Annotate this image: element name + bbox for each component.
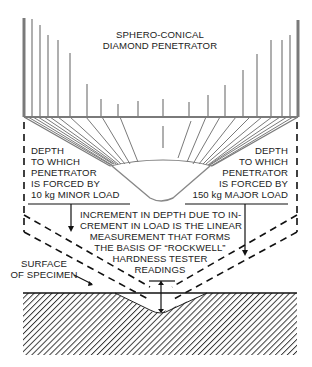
surface-line: SURFACE <box>8 258 80 269</box>
increment-line: HARDNESS TESTER <box>80 253 240 264</box>
major-load-line: 150 kg MAJOR LOAD <box>190 189 288 200</box>
surface-label: SURFACE OF SPECIMEN <box>8 258 80 280</box>
major-load-line: DEPTH <box>190 145 288 156</box>
increment-line: THE BASIS OF “ROCKWELL” <box>80 242 240 253</box>
major-load-line: PENETRATOR <box>190 167 288 178</box>
increment-line: INCREMENT IN DEPTH DUE TO IN- <box>80 209 240 220</box>
minor-load-line: TO WHICH <box>31 156 120 167</box>
rockwell-diagram: SPHERO-CONICAL DIAMOND PENETRATOR DEPTH … <box>0 0 312 367</box>
title: SPHERO-CONICAL DIAMOND PENETRATOR <box>80 29 240 51</box>
minor-load-line: IS FORCED BY <box>31 178 120 189</box>
major-load-line: TO WHICH <box>190 156 288 167</box>
specimen-block <box>23 293 297 355</box>
increment-line: CREMENT IN LOAD IS THE LINEAR <box>80 220 240 231</box>
minor-load-line: 10 kg MINOR LOAD <box>31 189 120 200</box>
minor-load-line: DEPTH <box>31 145 120 156</box>
surface-line: OF SPECIMEN <box>8 269 80 280</box>
major-load-line: IS FORCED BY <box>190 178 288 189</box>
major-load-label: DEPTH TO WHICH PENETRATOR IS FORCED BY 1… <box>190 145 288 200</box>
increment-line: READINGS <box>80 264 240 275</box>
increment-label: INCREMENT IN DEPTH DUE TO IN- CREMENT IN… <box>80 209 240 275</box>
minor-load-label: DEPTH TO WHICH PENETRATOR IS FORCED BY 1… <box>31 145 120 200</box>
title-line-1: SPHERO-CONICAL <box>80 29 240 40</box>
increment-line: MEASUREMENT THAT FORMS <box>80 231 240 242</box>
minor-load-line: PENETRATOR <box>31 167 120 178</box>
title-line-2: DIAMOND PENETRATOR <box>80 40 240 51</box>
